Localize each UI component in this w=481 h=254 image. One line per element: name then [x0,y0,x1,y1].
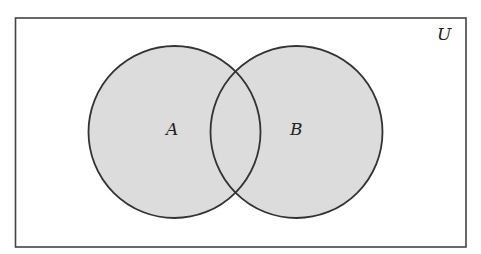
universe-label: U [437,24,452,44]
venn-diagram: U A B [0,0,481,254]
set-b-label: B [289,119,303,139]
set-a-label: A [164,119,178,139]
